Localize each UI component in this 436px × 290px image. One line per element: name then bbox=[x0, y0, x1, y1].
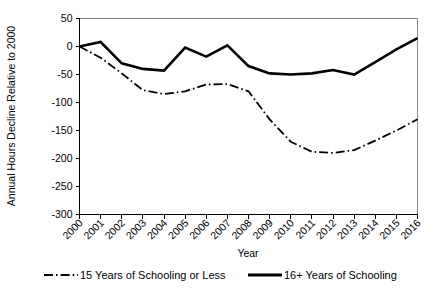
y-tick-label: -300 bbox=[51, 208, 72, 220]
plot-area-frame bbox=[80, 19, 418, 215]
x-tick-label: 2007 bbox=[208, 216, 233, 241]
x-tick-label: 2004 bbox=[144, 216, 169, 241]
series-line-16-plus-years bbox=[80, 38, 418, 74]
x-axis-title: Year bbox=[237, 247, 259, 259]
chart-container: 500-50-100-150-200-250-300 2000200120022… bbox=[0, 0, 436, 290]
x-tick-label: 2012 bbox=[313, 216, 338, 241]
x-tick-label: 2015 bbox=[377, 216, 402, 241]
y-tick-label: 0 bbox=[67, 40, 73, 52]
series-line-15-years-or-less bbox=[80, 47, 418, 153]
x-tick-label: 2013 bbox=[335, 216, 360, 241]
line-chart: 500-50-100-150-200-250-300 2000200120022… bbox=[0, 0, 436, 290]
y-tick-label: -200 bbox=[51, 152, 72, 164]
legend-label-16-plus-years: 16+ Years of Schooling bbox=[284, 269, 397, 281]
x-tick-label: 2014 bbox=[356, 216, 381, 241]
x-axis-tick-labels: 2000200120022003200420052006200720082009… bbox=[60, 216, 423, 241]
x-tick-label: 2016 bbox=[398, 216, 423, 241]
x-tick-label: 2011 bbox=[293, 216, 318, 241]
legend-label-15-years-or-less: 15 Years of Schooling or Less bbox=[80, 269, 226, 281]
chart-legend: 15 Years of Schooling or Less 16+ Years … bbox=[44, 269, 397, 281]
x-tick-label: 2001 bbox=[81, 216, 106, 241]
y-tick-label: -250 bbox=[51, 180, 72, 192]
x-axis-ticks bbox=[80, 215, 418, 219]
y-tick-label: -50 bbox=[57, 68, 72, 80]
x-tick-label: 2006 bbox=[187, 216, 212, 241]
x-tick-label: 2008 bbox=[229, 216, 254, 241]
x-tick-label: 2009 bbox=[250, 216, 275, 241]
y-tick-label: -150 bbox=[51, 124, 72, 136]
y-tick-label: 50 bbox=[61, 12, 73, 24]
y-axis-title: Annual Hours Decline Relative to 2000 bbox=[5, 26, 17, 207]
x-tick-label: 2003 bbox=[123, 216, 148, 241]
y-axis-ticks bbox=[76, 19, 80, 215]
y-tick-label: -100 bbox=[51, 96, 72, 108]
x-tick-label: 2010 bbox=[271, 216, 296, 241]
x-tick-label: 2002 bbox=[102, 216, 127, 241]
x-tick-label: 2005 bbox=[166, 216, 191, 241]
y-axis-tick-labels: 500-50-100-150-200-250-300 bbox=[51, 12, 72, 220]
